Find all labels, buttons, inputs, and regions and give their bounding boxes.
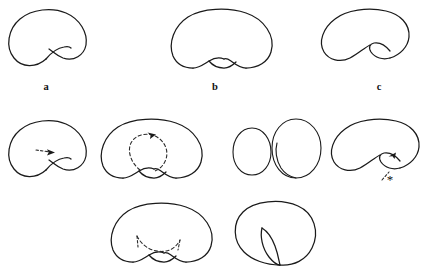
panel-oval-curl bbox=[272, 119, 321, 178]
figure-label-c: c bbox=[377, 82, 382, 93]
curve-oval-small bbox=[233, 128, 271, 175]
curve-c2-loop bbox=[380, 153, 400, 169]
figure-canvas: * bbox=[0, 0, 435, 277]
curve-c2-outline bbox=[331, 119, 419, 170]
curve-c-loop bbox=[370, 43, 390, 59]
curve-d3-fold-left bbox=[261, 228, 280, 265]
dashed-arc-b3-tail-right bbox=[178, 240, 180, 250]
panel-b bbox=[171, 9, 272, 68]
curve-b3-outline bbox=[111, 203, 212, 262]
panel-b2 bbox=[101, 119, 202, 178]
dashed-arc-b3 bbox=[137, 236, 180, 251]
panel-c bbox=[321, 9, 409, 60]
figure-label-b: b bbox=[212, 82, 218, 93]
curve-a-crossing-tail bbox=[46, 47, 71, 59]
figure-label-a: a bbox=[43, 82, 48, 93]
curve-d3-outline bbox=[235, 201, 315, 265]
panel-b3 bbox=[111, 203, 212, 262]
motion-arrow-a2-head bbox=[47, 149, 55, 155]
curve-b3-bump-left bbox=[133, 252, 164, 262]
panel-c2: * bbox=[331, 119, 419, 187]
panel-a2 bbox=[9, 121, 87, 177]
curve-a2-crossing-tail bbox=[46, 158, 71, 170]
curve-c-outline bbox=[321, 9, 409, 60]
curve-b2-outline bbox=[101, 119, 202, 178]
panel-a bbox=[9, 10, 87, 66]
curve-b-outline bbox=[171, 9, 272, 68]
curve-b-bump-left bbox=[193, 58, 224, 68]
figure-root: * a b c bbox=[0, 0, 435, 277]
asterisk-marker: * bbox=[387, 172, 394, 187]
panel-oval-small bbox=[233, 128, 271, 175]
dashed-loop-b2-arrowhead bbox=[148, 133, 157, 140]
dashed-loop-b2 bbox=[129, 134, 166, 171]
curve-oval-curl-outline bbox=[272, 119, 321, 178]
curve-oval-curl-inner bbox=[276, 143, 296, 178]
panel-d3 bbox=[235, 201, 315, 265]
